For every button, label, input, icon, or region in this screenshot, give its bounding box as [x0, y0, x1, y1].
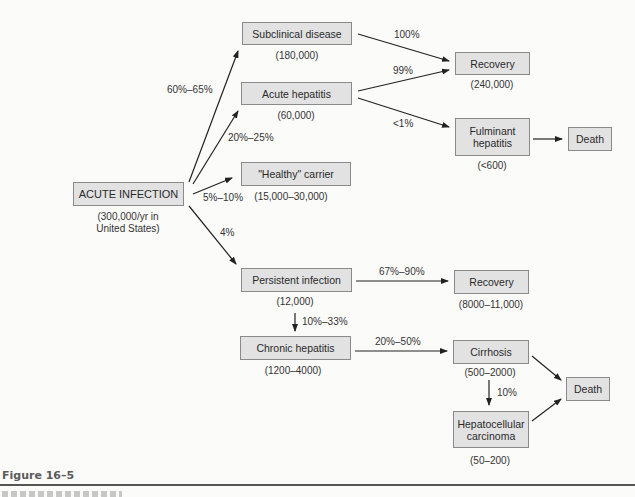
caption-divider [0, 484, 635, 486]
arrow-to-subclinical [189, 51, 238, 182]
node-hepatocellular-carcinoma: Hepatocellular carcinoma [453, 411, 529, 448]
node-label: Death [574, 383, 602, 395]
node-count: (<600) [477, 160, 506, 172]
node-count: (1200–4000) [265, 365, 322, 377]
node-count: (500–2000) [464, 367, 515, 379]
count-line-2: United States) [96, 223, 159, 235]
node-recovery-top: Recovery [455, 52, 530, 75]
node-label: Recovery [470, 58, 514, 70]
clipped-caption-text [2, 491, 122, 497]
node-count: (240,000) [471, 79, 514, 91]
edge-label-subclinical-recovery: 100% [394, 29, 420, 41]
node-recovery-persistent: Recovery [454, 270, 529, 294]
node-count: (180,000) [276, 50, 319, 62]
node-death-bottom: Death [566, 377, 610, 401]
count-line-1: (300,000/yr in [96, 211, 159, 223]
figure-caption: Figure 16–5 [2, 469, 74, 482]
edge-label-persistent: 4% [220, 227, 234, 239]
edge-label-acute-hepatitis: 20%–25% [228, 132, 274, 144]
edge-label-persistent-chronic: 10%–33% [302, 316, 348, 328]
node-persistent-infection: Persistent infection [241, 268, 352, 292]
node-label: Recovery [469, 276, 513, 288]
edge-label-acute-recovery: 99% [393, 65, 413, 77]
node-subclinical-disease: Subclinical disease [242, 22, 352, 45]
arrow-cirrhosis-death [532, 356, 561, 380]
node-count: (50–200) [470, 455, 510, 467]
node-count: (300,000/yr in United States) [96, 211, 159, 235]
node-chronic-hepatitis: Chronic hepatitis [240, 336, 351, 360]
node-label-line-1: Hepatocellular [457, 418, 524, 430]
edge-label-acute-fulminant: <1% [393, 118, 413, 130]
node-label: Persistent infection [252, 274, 341, 286]
edge-label-subclinical: 60%–65% [167, 84, 213, 96]
node-healthy-carrier: "Healthy" carrier [241, 162, 351, 186]
node-label: Death [576, 133, 604, 145]
node-label: Subclinical disease [252, 28, 341, 40]
node-count: (60,000) [277, 110, 314, 122]
node-cirrhosis: Cirrhosis [453, 340, 529, 364]
node-label-line-2: carcinoma [467, 430, 515, 442]
node-acute-infection: ACUTE INFECTION [73, 182, 184, 206]
node-count: (15,000–30,000) [254, 191, 327, 203]
edge-label-cirrhosis-hcc: 10% [497, 387, 517, 399]
node-label: Cirrhosis [470, 346, 511, 358]
arrow-layer [0, 0, 635, 497]
node-label: Chronic hepatitis [256, 342, 334, 354]
node-acute-hepatitis: Acute hepatitis [241, 82, 352, 105]
node-death-top: Death [568, 127, 612, 151]
node-fulminant-hepatitis: Fulminant hepatitis [455, 118, 530, 156]
node-count: (8000–11,000) [459, 299, 523, 311]
edge-label-persistent-recovery: 67%–90% [379, 266, 425, 278]
node-label-line-2: hepatitis [473, 137, 512, 149]
node-label-line-1: Fulminant [469, 125, 515, 137]
edge-label-chronic-cirrhosis: 20%–50% [375, 336, 421, 348]
arrow-to-acute-hepatitis [193, 111, 238, 184]
node-label: "Healthy" carrier [258, 168, 334, 180]
node-label: ACUTE INFECTION [79, 188, 179, 200]
node-label: Acute hepatitis [262, 88, 331, 100]
arrow-hcc-death [532, 399, 561, 421]
node-count: (12,000) [276, 296, 313, 308]
edge-label-healthy-carrier: 5%–10% [203, 192, 243, 204]
